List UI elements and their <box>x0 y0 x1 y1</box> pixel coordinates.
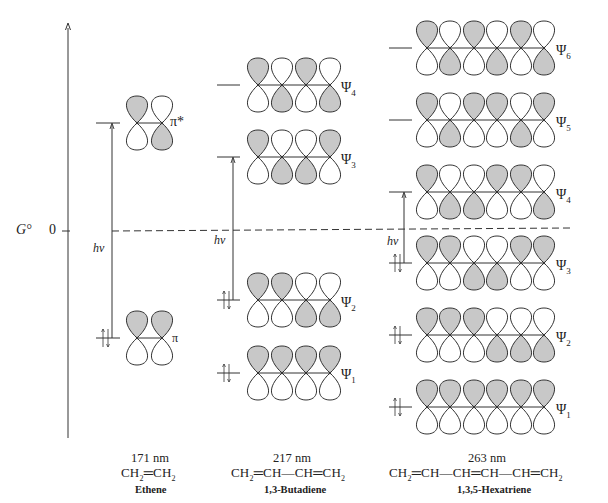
nucleus-dot <box>543 119 545 121</box>
molecular-orbital <box>389 93 555 147</box>
orbital-label-hexatriene-psi5: Ψ5 <box>556 115 571 133</box>
psi-subscript: 5 <box>566 123 571 133</box>
psi-symbol: Ψ <box>556 330 566 345</box>
p-orbital-top-lobe <box>126 96 147 123</box>
hv-label-ethene: hν <box>93 241 104 256</box>
p-orbital-bottom-lobe <box>295 373 316 400</box>
p-orbital-top-lobe <box>416 165 437 192</box>
nucleus-dot <box>543 406 545 408</box>
nucleus-dot <box>329 299 331 301</box>
molecular-orbital <box>96 96 173 150</box>
p-orbital-top-lobe <box>416 21 437 48</box>
hv-label-butadiene: hν <box>214 233 225 248</box>
p-orbital-top-lobe <box>533 308 554 335</box>
p-orbital-top-lobe <box>416 93 437 120</box>
psi-symbol: Ψ <box>556 187 566 202</box>
molecular-orbital <box>389 165 555 219</box>
p-orbital-bottom-lobe <box>319 85 340 112</box>
psi-subscript: 3 <box>566 266 571 276</box>
p-orbital-bottom-lobe <box>151 338 172 365</box>
p-orbital-bottom-lobe <box>439 407 460 434</box>
p-orbital-bottom-lobe <box>486 192 507 219</box>
p-orbital-bottom-lobe <box>533 120 554 147</box>
p-orbital-top-lobe <box>416 380 437 407</box>
nucleus-dot <box>520 262 522 264</box>
p-orbital-top-lobe <box>271 273 292 300</box>
butadiene-wavelength: 217 nm <box>273 451 311 466</box>
nucleus-dot <box>449 47 451 49</box>
axis-label-g: G° <box>16 222 32 238</box>
nucleus-dot <box>426 191 428 193</box>
nucleus-dot <box>496 262 498 264</box>
p-orbital-top-lobe <box>247 346 268 373</box>
p-orbital-bottom-lobe <box>533 192 554 219</box>
psi-subscript: 3 <box>351 160 356 170</box>
nucleus-dot <box>426 47 428 49</box>
psi-subscript: 4 <box>351 88 356 98</box>
p-orbital-top-lobe <box>416 236 437 263</box>
p-orbital-bottom-lobe <box>533 335 554 362</box>
p-orbital-bottom-lobe <box>463 48 484 75</box>
nucleus-dot <box>305 156 307 158</box>
p-orbital-bottom-lobe <box>271 373 292 400</box>
p-orbital-bottom-lobe <box>486 407 507 434</box>
nucleus-dot <box>281 156 283 158</box>
nucleus-dot <box>520 406 522 408</box>
nucleus-dot <box>329 84 331 86</box>
psi-symbol: Ψ <box>341 80 351 95</box>
nucleus-dot <box>257 372 259 374</box>
p-orbital-bottom-lobe <box>319 300 340 327</box>
p-orbital-top-lobe <box>510 308 531 335</box>
molecular-orbital <box>96 311 173 365</box>
p-orbital-top-lobe <box>486 21 507 48</box>
psi-symbol: Ψ <box>556 43 566 58</box>
p-orbital-bottom-lobe <box>510 120 531 147</box>
p-orbital-bottom-lobe <box>247 373 268 400</box>
p-orbital-top-lobe <box>271 130 292 157</box>
mo-energy-diagram <box>0 0 608 503</box>
p-orbital-bottom-lobe <box>463 407 484 434</box>
orbital-label-pi-star: π* <box>170 114 184 130</box>
molecular-orbital <box>217 346 341 400</box>
nucleus-dot <box>496 191 498 193</box>
nucleus-dot <box>543 47 545 49</box>
p-orbital-top-lobe <box>439 380 460 407</box>
p-orbital-top-lobe <box>486 165 507 192</box>
orbital-label-pi: π <box>172 331 178 346</box>
nucleus-dot <box>520 47 522 49</box>
nucleus-dot <box>449 334 451 336</box>
hv-transition-arrow <box>402 192 406 263</box>
psi-subscript: 1 <box>566 410 571 420</box>
p-orbital-top-lobe <box>486 93 507 120</box>
axis-zero-label: 0 <box>49 222 56 238</box>
p-orbital-bottom-lobe <box>295 300 316 327</box>
p-orbital-top-lobe <box>510 21 531 48</box>
p-orbital-top-lobe <box>271 58 292 85</box>
psi-symbol: Ψ <box>556 258 566 273</box>
nucleus-dot <box>329 156 331 158</box>
nucleus-dot <box>257 84 259 86</box>
p-orbital-top-lobe <box>463 236 484 263</box>
orbital-label-butadiene-psi3: Ψ3 <box>341 152 356 170</box>
orbital-label-butadiene-psi4: Ψ4 <box>341 80 356 98</box>
p-orbital-bottom-lobe <box>271 157 292 184</box>
p-orbital-top-lobe <box>319 273 340 300</box>
p-orbital-top-lobe <box>463 93 484 120</box>
p-orbital-top-lobe <box>463 308 484 335</box>
butadiene-formula: CH2═CH—CH═CH2 <box>231 465 345 483</box>
p-orbital-top-lobe <box>510 236 531 263</box>
psi-symbol: Ψ <box>341 152 351 167</box>
nucleus-dot <box>305 299 307 301</box>
orbital-label-hexatriene-psi6: Ψ6 <box>556 43 571 61</box>
molecular-orbital <box>217 273 341 327</box>
nucleus-dot <box>473 406 475 408</box>
psi-symbol: Ψ <box>341 367 351 382</box>
nucleus-dot <box>543 334 545 336</box>
p-orbital-bottom-lobe <box>463 263 484 290</box>
p-orbital-bottom-lobe <box>486 263 507 290</box>
p-orbital-bottom-lobe <box>416 48 437 75</box>
nucleus-dot <box>496 119 498 121</box>
p-orbital-bottom-lobe <box>295 85 316 112</box>
p-orbital-bottom-lobe <box>533 263 554 290</box>
p-orbital-top-lobe <box>439 165 460 192</box>
